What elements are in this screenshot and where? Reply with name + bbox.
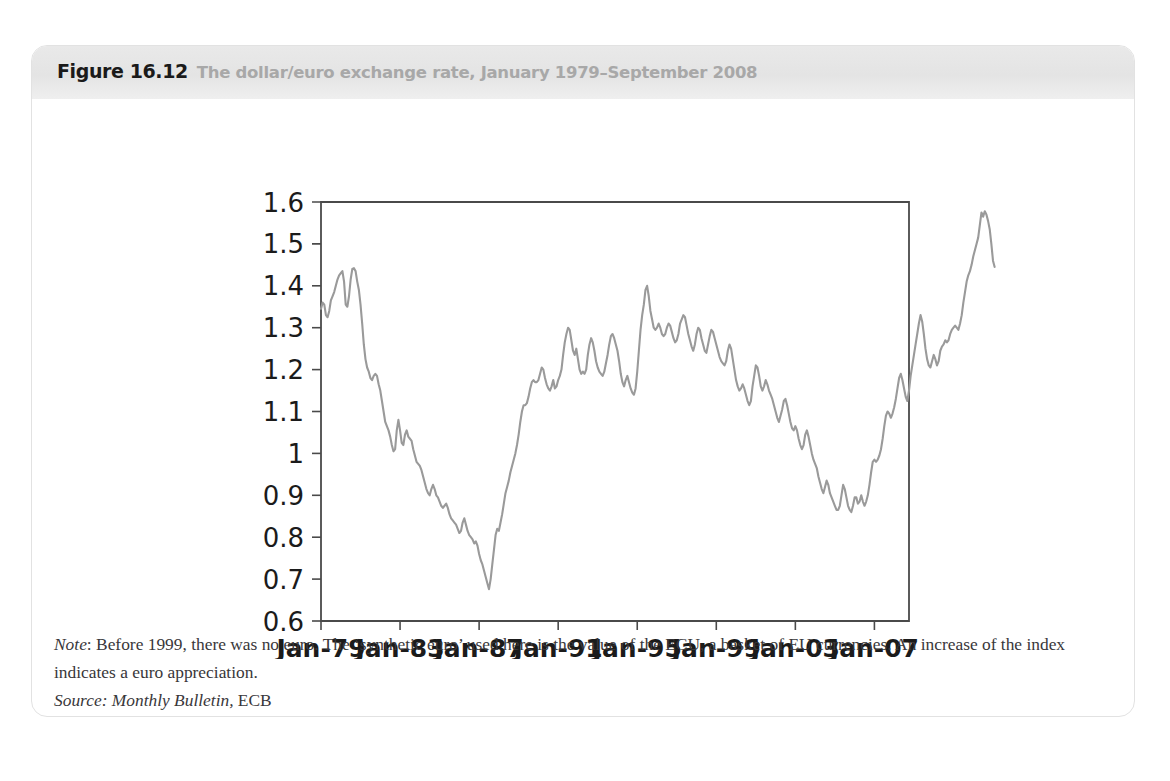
y-axis-tick-marks (312, 202, 321, 621)
ghost-text-bottom (120, 745, 820, 769)
y-tick-label: 1.4 (263, 271, 304, 301)
y-tick-label: 1.2 (263, 355, 304, 385)
plot-frame (321, 202, 909, 621)
y-tick-label: 0.9 (263, 481, 304, 511)
note-line: Note: Before 1999, there was no euro. Th… (54, 631, 1118, 686)
exchange-rate-line-chart: 0.60.70.80.911.11.21.31.41.51.6 Jan-79Ja… (32, 99, 1135, 659)
x-axis-tick-marks (321, 621, 874, 630)
y-axis-tick-labels: 0.60.70.80.911.11.21.31.41.51.6 (263, 188, 304, 637)
figure-header-bar: Figure 16.12The dollar/euro exchange rat… (32, 46, 1134, 99)
note-body: : Before 1999, there was no euro. The ‘s… (54, 634, 1065, 682)
y-tick-label: 0.7 (263, 565, 304, 595)
y-tick-label: 1.3 (263, 313, 304, 343)
y-tick-label: 0.8 (263, 523, 304, 553)
y-tick-label: 1.5 (263, 229, 304, 259)
source-italic: : Monthly Bulletin, (102, 690, 234, 710)
source-rest: ECB (234, 690, 272, 710)
page-canvas: Figure 16.12The dollar/euro exchange rat… (0, 0, 1170, 781)
figure-notes: Note: Before 1999, there was no euro. Th… (54, 631, 1118, 715)
source-line: Source: Monthly Bulletin, ECB (54, 687, 1118, 715)
chart-area: 0.60.70.80.911.11.21.31.41.51.6 Jan-79Ja… (32, 99, 1135, 659)
figure-container: Figure 16.12The dollar/euro exchange rat… (31, 45, 1135, 717)
note-prefix: Note (54, 634, 87, 654)
figure-caption: Figure 16.12The dollar/euro exchange rat… (57, 60, 757, 82)
figure-number: Figure 16.12 (57, 60, 188, 82)
y-tick-label: 1 (287, 439, 304, 469)
figure-title: The dollar/euro exchange rate, January 1… (197, 63, 757, 82)
data-series-line (321, 211, 995, 589)
y-tick-label: 1.6 (263, 188, 304, 218)
y-tick-label: 1.1 (263, 397, 304, 427)
ghost-text-top (40, 0, 460, 26)
source-prefix: Source (54, 690, 102, 710)
